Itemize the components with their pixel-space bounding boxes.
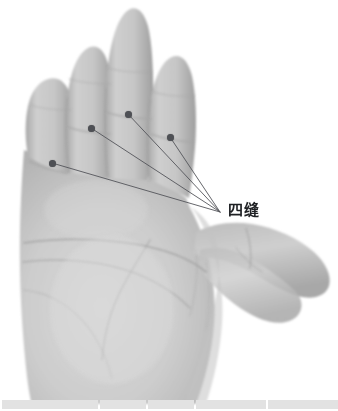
annotation-leader-lines	[0, 0, 338, 411]
sifeng-ring-finger-dot	[88, 125, 95, 132]
leader-line-sifeng-index-finger	[170, 137, 220, 212]
strip-segment-2	[100, 400, 146, 409]
sifeng-middle-finger-dot	[125, 111, 132, 118]
strip-segment-1	[2, 400, 98, 409]
acupoint-label: 四缝	[228, 203, 259, 218]
strip-segment-4	[196, 400, 266, 409]
leader-line-sifeng-little-finger	[52, 163, 220, 212]
sifeng-little-finger-dot	[49, 160, 56, 167]
bottom-strip	[0, 398, 338, 411]
leader-line-sifeng-ring-finger	[91, 128, 220, 212]
leader-line-sifeng-middle-finger	[128, 114, 220, 212]
strip-segment-3	[148, 400, 194, 409]
sifeng-index-finger-dot	[167, 134, 174, 141]
acupoint-figure: 四缝	[0, 0, 338, 411]
strip-segment-5	[268, 400, 338, 409]
